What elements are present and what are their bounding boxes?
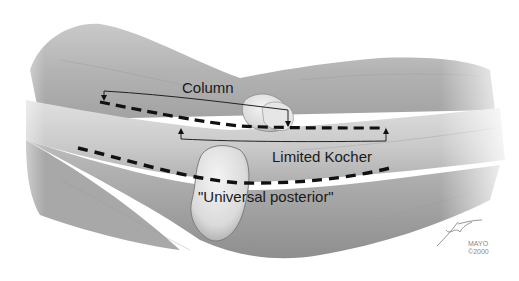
credit-year: ©2000 — [468, 248, 489, 256]
elbow-illustration — [0, 0, 519, 281]
left-edge-fade — [0, 0, 45, 281]
universal-posterior-label: "Universal posterior" — [198, 189, 334, 204]
limited-kocher-label: Limited Kocher — [272, 149, 372, 164]
right-edge-fade — [440, 0, 519, 281]
column-label: Column — [182, 80, 234, 95]
illustration-canvas: Column Limited Kocher "Universal posteri… — [0, 0, 519, 281]
credit-mayo: MAYO — [468, 240, 488, 248]
